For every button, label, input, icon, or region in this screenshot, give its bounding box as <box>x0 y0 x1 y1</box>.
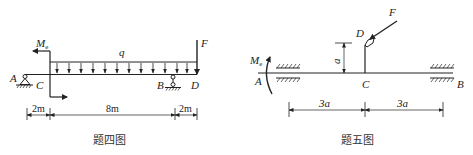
figure-4-beam: q Me A C B F D <box>9 37 208 147</box>
figure-5-shaft: Me A F D C B a 3a 3a 题五图 <box>249 6 464 147</box>
label-d: D <box>355 27 364 39</box>
dim-3a-right: 3a <box>396 97 409 109</box>
dimension-lines <box>289 102 443 117</box>
label-me: Me <box>35 37 48 51</box>
label-d: D <box>190 79 199 91</box>
diagram-canvas: q Me A C B F D <box>0 0 473 155</box>
label-a: A <box>254 75 262 87</box>
label-b: B <box>157 79 164 91</box>
label-c: C <box>362 78 370 90</box>
distributed-load <box>50 62 197 73</box>
dimension-a <box>335 43 352 73</box>
crank-cd <box>365 38 374 73</box>
caption-figure-5: 题五图 <box>341 134 374 147</box>
moment-me-arrow <box>266 57 272 94</box>
label-f: F <box>388 6 396 18</box>
roller-support-b <box>165 75 181 91</box>
dim-2m-left: 2m <box>32 103 45 114</box>
dim-2m-right: 2m <box>179 103 192 114</box>
caption-figure-4: 题四图 <box>93 134 126 147</box>
label-f: F <box>200 37 208 49</box>
label-a: A <box>9 72 17 84</box>
dim-a: a <box>330 58 342 64</box>
label-q: q <box>119 46 125 58</box>
label-c: C <box>36 79 44 91</box>
label-me: Me <box>249 54 262 68</box>
label-b: B <box>457 78 464 90</box>
dim-3a-left: 3a <box>318 97 331 109</box>
force-f-arrow <box>370 21 397 39</box>
dim-8m: 8m <box>106 103 119 114</box>
pin-support-a <box>16 75 33 89</box>
